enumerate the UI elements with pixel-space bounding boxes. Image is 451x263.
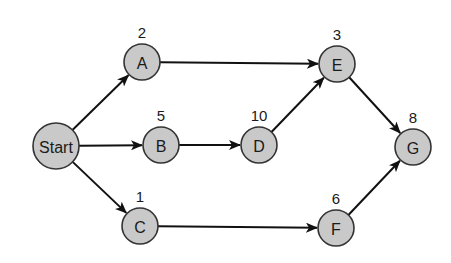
edge-start-to-a (72, 75, 128, 130)
duration-label: 2 (138, 24, 146, 41)
duration-label: 5 (157, 107, 165, 124)
node-c: C1 (122, 188, 158, 244)
edge-c-to-f (158, 226, 317, 228)
node-d: D10 (241, 107, 277, 163)
edge-start-to-c (73, 162, 127, 213)
edge-a-to-e (160, 62, 318, 64)
duration-label: 6 (332, 190, 340, 207)
edge-d-to-e (271, 78, 323, 132)
edge-start-to-b (79, 145, 142, 146)
node-b: B5 (143, 107, 179, 163)
node-e: E3 (319, 26, 355, 82)
node-f: F6 (318, 190, 354, 246)
duration-label: 10 (251, 107, 268, 124)
duration-label: 8 (409, 109, 417, 126)
duration-label: 3 (333, 26, 341, 43)
node-a: A2 (124, 24, 160, 80)
node-label: B (156, 138, 167, 155)
duration-label: 1 (136, 188, 144, 205)
edges-layer (72, 62, 400, 228)
node-label: C (134, 219, 146, 236)
edge-e-to-g (349, 77, 400, 133)
node-label: Start (39, 139, 73, 156)
network-diagram: StartA2B5C1D10E3F6G8 (0, 0, 451, 263)
node-label: A (137, 55, 148, 72)
node-g: G8 (395, 109, 431, 165)
node-label: D (253, 138, 265, 155)
edge-f-to-g (348, 161, 400, 215)
node-start: Start (33, 123, 79, 169)
node-label: G (407, 140, 419, 157)
node-label: E (332, 57, 343, 74)
node-label: F (331, 221, 341, 238)
nodes-layer: StartA2B5C1D10E3F6G8 (33, 24, 431, 246)
